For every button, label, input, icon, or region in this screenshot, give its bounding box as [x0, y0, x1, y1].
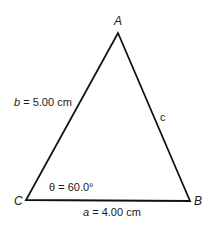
side-c-variable: c: [160, 111, 166, 123]
side-a-label: a = 4.00 cm: [83, 207, 141, 218]
side-b-value: = 5.00 cm: [20, 96, 72, 108]
side-b-label: b = 5.00 cm: [14, 97, 72, 108]
angle-theta-value: = 60.0°: [55, 181, 93, 193]
vertex-label-b: B: [194, 196, 202, 207]
side-c-label: c: [160, 112, 166, 123]
vertex-label-c: C: [14, 196, 23, 207]
angle-theta-label: θ = 60.0°: [49, 182, 93, 193]
side-a-value: = 4.00 cm: [89, 206, 141, 218]
vertex-label-a: A: [114, 16, 122, 27]
triangle-diagram: [0, 0, 214, 231]
